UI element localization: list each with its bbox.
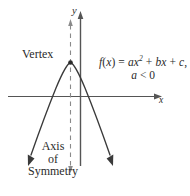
axis-of-symmetry-line-1: Axis (16, 140, 90, 153)
formula-equals: = (115, 56, 128, 68)
formula-plus-2: + (167, 56, 180, 68)
axis-of-symmetry-line-3: Symmetry (16, 165, 90, 178)
vertex-point-marker (68, 60, 73, 65)
formula-line-2: a < 0 (99, 69, 187, 81)
x-axis (8, 94, 162, 100)
condition-value: 0 (149, 69, 155, 81)
function-formula: f(x) = ax2 + bx + c, a < 0 (99, 55, 187, 81)
y-axis-label: y (72, 5, 77, 16)
formula-line-1: f(x) = ax2 + bx + c, (99, 55, 187, 68)
formula-plus-1: + (143, 56, 156, 68)
condition-relation: < (137, 69, 149, 81)
quadratic-function-figure: Vertex f(x) = ax2 + bx + c, a < 0 Axis o… (0, 0, 190, 196)
vertex-label: Vertex (22, 48, 53, 61)
axis-of-symmetry-label: Axis of Symmetry (16, 140, 90, 178)
formula-comma: , (184, 56, 187, 68)
x-axis-label: x (159, 96, 163, 106)
